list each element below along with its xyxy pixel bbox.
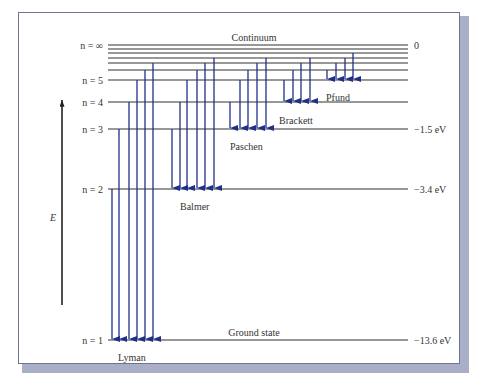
level-energy-value: −13.6 eV bbox=[414, 335, 452, 346]
series-lyman: Lyman bbox=[112, 63, 153, 363]
level-quantum-number: n = 4 bbox=[82, 97, 103, 108]
level-quantum-number: n = 2 bbox=[82, 184, 103, 195]
level-quantum-number: n = 3 bbox=[82, 124, 103, 135]
series-label: Balmer bbox=[180, 201, 210, 212]
series-label: Pfund bbox=[326, 92, 350, 103]
level-quantum-number: n = 5 bbox=[82, 75, 103, 86]
series-paschen: Paschen bbox=[230, 58, 266, 152]
series-label: Lyman bbox=[118, 352, 146, 363]
series-pfund: Pfund bbox=[326, 53, 353, 103]
series-brackett: Brackett bbox=[279, 58, 313, 126]
level-caption: Continuum bbox=[231, 32, 276, 43]
level-energy-value: 0 bbox=[414, 40, 419, 51]
level-caption: Ground state bbox=[228, 327, 280, 338]
series-label: Paschen bbox=[230, 141, 263, 152]
spectral-series: LymanBalmerPaschenBrackettPfund bbox=[112, 53, 353, 363]
level-energy-value: −3.4 eV bbox=[414, 184, 447, 195]
level-energy-value: −1.5 eV bbox=[414, 124, 447, 135]
level-quantum-number: n = ∞ bbox=[80, 40, 103, 51]
series-label: Brackett bbox=[279, 115, 313, 126]
energy-axis-label: E bbox=[49, 212, 56, 223]
level-quantum-number: n = 1 bbox=[82, 335, 103, 346]
energy-level-diagram: E n = ∞0Continuumn = 5n = 4n = 3−1.5 eVn… bbox=[0, 0, 480, 381]
